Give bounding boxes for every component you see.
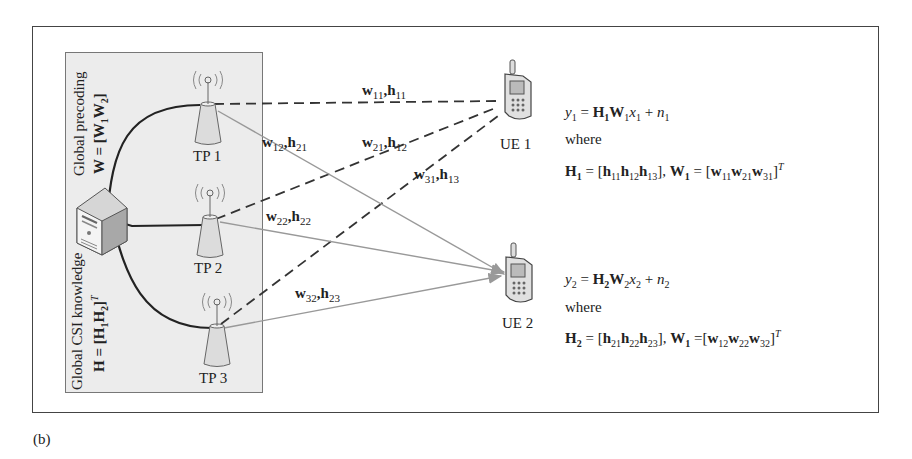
link-label-w32-h23: w32,h23	[295, 285, 340, 304]
tp1-antenna-icon	[194, 71, 223, 145]
ue1-signal-equation: y1 = H1W1x1 + n1	[565, 104, 669, 123]
tp3-antenna-icon	[203, 293, 232, 367]
tp2-antenna-icon	[196, 184, 225, 258]
link-label-w21-h12: w21,h12	[362, 134, 407, 153]
link-label-w11-h11: w11,h11	[362, 82, 406, 101]
link-label-w31-h13: w31,h13	[414, 166, 459, 185]
dashed-links-ue1	[214, 101, 502, 324]
csi-label: Global CSI knowledge	[69, 253, 86, 390]
link-label-w22-h22: w22,h22	[266, 208, 311, 227]
ue2-signal-equation: y2 = H2W2x2 + n2	[565, 271, 669, 290]
ue2-label: UE 2	[502, 315, 533, 332]
tp3-label: TP 3	[199, 370, 227, 387]
ue1-phone-icon	[505, 60, 531, 119]
ue1-definition: H1 = [h11h12h13], W1 = [w11w21w31]T	[565, 161, 784, 182]
csi-formula: H = [H1H2]T	[89, 295, 110, 372]
ue2-phone-icon	[506, 243, 532, 302]
tp2-label: TP 2	[194, 260, 222, 277]
precoding-formula: W = [W1W2]	[91, 93, 110, 174]
figure-caption: (b)	[33, 431, 51, 448]
network-links	[0, 0, 912, 459]
link-label-w12-h21: w12,h21	[262, 134, 307, 153]
precoding-label: Global precoding	[71, 71, 88, 176]
solid-links-ue2	[218, 111, 504, 328]
ue2-definition: H2 = [h21h22h23], W1 =[w12w22w32]T	[565, 328, 780, 349]
tp1-label: TP 1	[193, 148, 221, 165]
server-icon	[77, 188, 127, 255]
ue1-where: where	[565, 131, 602, 148]
ue1-label: UE 1	[500, 136, 531, 153]
ue2-where: where	[565, 299, 602, 316]
